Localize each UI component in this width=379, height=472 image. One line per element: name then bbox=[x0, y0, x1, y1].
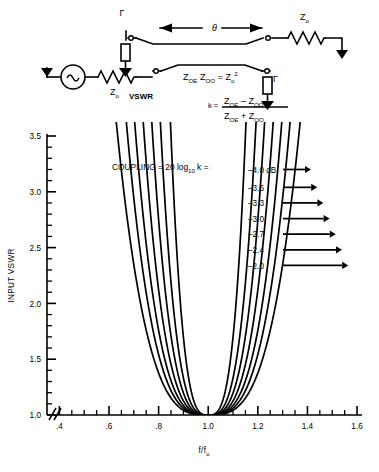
y-axis-title: INPUT VSWR bbox=[7, 248, 16, 302]
legend-arrowhead bbox=[330, 231, 336, 238]
schem-termination-box-top-left bbox=[121, 44, 130, 61]
ground-icon-source bbox=[41, 68, 53, 77]
label-k-equals: k = bbox=[208, 101, 219, 110]
x-tick-label: 1.0 bbox=[203, 422, 215, 431]
label-gamma-top-left: Γ bbox=[120, 8, 125, 18]
x-tick-label: 1.6 bbox=[351, 422, 363, 431]
label-k-numerator: ZOE – ZOO bbox=[224, 96, 264, 108]
legend-label-2.0: –2.0 bbox=[248, 262, 264, 271]
label-vswr: VSWR bbox=[129, 92, 153, 101]
vswr-curve-3.6 bbox=[125, 105, 292, 415]
legend-label-4.0db: –4.0 dB bbox=[248, 166, 277, 175]
label-impedance-relation: ZOE ZOO = Zo2 bbox=[183, 70, 238, 84]
schem-port-dot-top-left bbox=[129, 36, 134, 41]
legend-arrowhead bbox=[336, 246, 342, 253]
schem-coupled-line-upper bbox=[136, 38, 263, 44]
ground-icon-top-left bbox=[119, 68, 132, 77]
vswr-curve-4.0db bbox=[114, 98, 303, 415]
y-tick-label: 3.0 bbox=[30, 188, 42, 197]
schem-resistor-z0-source bbox=[98, 71, 136, 83]
x-tick-label: 1.4 bbox=[302, 422, 314, 431]
x-tick-label: 1.2 bbox=[252, 422, 264, 431]
legend-label-2.4: –2.4 bbox=[248, 246, 264, 255]
coupling-formula-label: COUPLING = 20 log10 k = bbox=[112, 162, 209, 174]
vswr-chart: 1.01.52.02.53.03.5.4.6.81.01.21.41.6INPU… bbox=[0, 118, 379, 472]
label-z0-source: Zo bbox=[110, 87, 120, 99]
schem-resistor-z0-top bbox=[288, 32, 325, 44]
schem-port-dot-bottom-left bbox=[154, 69, 159, 74]
y-tick-label: 3.5 bbox=[30, 132, 42, 141]
schem-termination-box-bottom-right bbox=[263, 77, 272, 94]
schem-top-right-ground-lead bbox=[325, 38, 342, 50]
figure-root: Γ Γ θ Zo Zo VSWR ZOE ZOO = Zo2 k = ZOE –… bbox=[0, 0, 379, 472]
schem-port-dot-top-right bbox=[266, 36, 271, 41]
label-gamma-bottom-right: Γ bbox=[273, 74, 278, 84]
schem-coupled-line-lower bbox=[161, 65, 262, 71]
label-theta: θ bbox=[212, 23, 217, 33]
ground-icon-top-right bbox=[336, 50, 348, 59]
x-tick-label: .8 bbox=[155, 422, 162, 431]
y-tick-label: 2.0 bbox=[30, 300, 42, 309]
schem-port-dot-bottom-right bbox=[265, 69, 270, 74]
curve-family bbox=[114, 98, 303, 415]
directional-coupler-schematic: Γ Γ θ Zo Zo VSWR ZOE ZOO = Zo2 k = ZOE –… bbox=[0, 0, 379, 122]
legend-arrowhead bbox=[317, 199, 323, 206]
legend-label-3.3: –3.3 bbox=[248, 199, 264, 208]
label-z0-top-right: Zo bbox=[300, 12, 310, 24]
vswr-curve-2.4 bbox=[160, 107, 257, 415]
x-tick-label: .6 bbox=[106, 422, 113, 431]
legend-arrowhead bbox=[305, 166, 311, 173]
x-axis-title: f/fo bbox=[199, 446, 211, 457]
legend-label-2.7: –2.7 bbox=[248, 230, 264, 239]
x-tick-label: .4 bbox=[56, 422, 63, 431]
legend-arrowhead bbox=[342, 262, 348, 269]
legend-arrowhead bbox=[324, 215, 330, 222]
legend-label-3.0: –3.0 bbox=[248, 215, 264, 224]
schem-theta-arrowhead-left bbox=[160, 24, 172, 33]
legend-label-3.6: –3.6 bbox=[248, 184, 264, 193]
y-tick-label: 1.0 bbox=[30, 411, 42, 420]
schem-theta-arrowhead-right bbox=[250, 24, 262, 33]
y-tick-label: 1.5 bbox=[30, 355, 42, 364]
y-tick-label: 2.5 bbox=[30, 244, 42, 253]
legend-arrowhead bbox=[311, 184, 317, 191]
